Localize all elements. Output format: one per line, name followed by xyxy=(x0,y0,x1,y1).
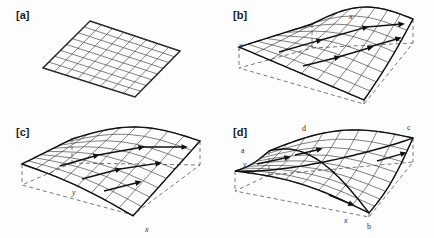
panel-label-b: [b] xyxy=(233,9,247,21)
corner-label-d: d xyxy=(302,124,306,133)
panel-d xyxy=(217,119,434,238)
panel-a xyxy=(0,0,217,119)
panel-b xyxy=(217,0,434,119)
panel-label-a: [a] xyxy=(16,9,29,21)
panel-label-c: [c] xyxy=(16,126,29,138)
panel-d-diagram xyxy=(217,119,434,238)
axis-label-x-b: x xyxy=(349,12,353,21)
axis-label-x-d: x xyxy=(344,216,348,225)
corner-label-c: c xyxy=(407,123,411,132)
axis-label-y-c: y xyxy=(72,188,76,197)
axis-label-y-d: y xyxy=(243,160,247,169)
panel-c-diagram xyxy=(0,119,217,238)
axis-label-y-b: y xyxy=(239,41,243,50)
panel-a-diagram xyxy=(0,0,217,119)
corner-label-b: b xyxy=(367,222,371,231)
corner-label-a: a xyxy=(241,146,245,155)
panel-b-diagram xyxy=(217,0,434,119)
figure-container: [a] [b] x y [c] y x [d] d c a b xyxy=(0,0,434,238)
panel-label-d: [d] xyxy=(233,126,247,138)
axis-label-x-c: x xyxy=(145,225,149,234)
panel-c xyxy=(0,119,217,238)
